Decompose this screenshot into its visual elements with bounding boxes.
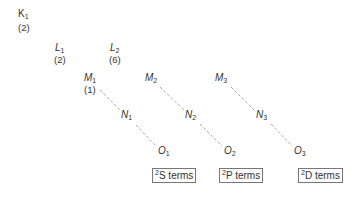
- shell-o3-label: O3: [294, 145, 306, 159]
- line-m3-n3: [231, 87, 254, 110]
- line-m2-n2: [160, 87, 184, 110]
- series-box-d-terms: 2D terms: [298, 168, 343, 183]
- series-box-p-terms: 2P terms: [219, 168, 263, 183]
- shell-m3-label: M3: [215, 72, 227, 86]
- shell-k1-count: (2): [18, 23, 30, 33]
- shell-n2-label: N2: [185, 109, 196, 123]
- line-n3-o3: [271, 124, 292, 146]
- shell-k1-label: K1: [18, 8, 29, 22]
- series-box-s-terms: 2S terms: [152, 168, 196, 183]
- line-n1-o1: [136, 125, 156, 146]
- shell-n3-label: N3: [256, 109, 267, 123]
- shell-o1-label: O1: [158, 145, 170, 159]
- shell-l1-count: (2): [54, 55, 66, 65]
- shell-m1-count: (1): [84, 85, 96, 95]
- shell-o2-label: O2: [224, 145, 236, 159]
- line-n2-o2: [200, 124, 222, 146]
- line-m1-n1: [100, 90, 120, 110]
- shell-l2-count: (6): [109, 55, 121, 65]
- shell-m2-label: M2: [145, 72, 157, 86]
- shell-n1-label: N1: [121, 109, 132, 123]
